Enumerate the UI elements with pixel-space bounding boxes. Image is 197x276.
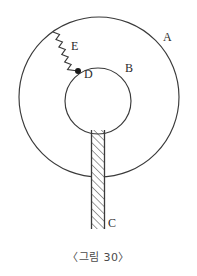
- hatched-rod: [91, 130, 105, 229]
- inner-circle: [65, 68, 131, 134]
- label-b: B: [125, 62, 133, 74]
- label-a: A: [163, 31, 172, 43]
- figure-caption: 〈그림 30〉: [0, 248, 197, 264]
- label-d: D: [84, 68, 93, 80]
- attachment-point-d: [75, 68, 81, 74]
- figure-container: A B C D E 〈그림 30〉: [0, 0, 197, 276]
- label-e: E: [71, 40, 78, 52]
- label-c: C: [108, 217, 116, 229]
